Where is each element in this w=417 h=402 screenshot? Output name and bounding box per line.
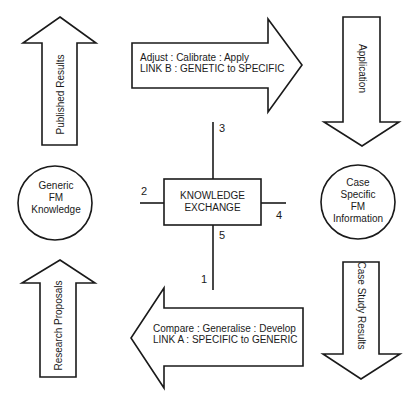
case-line4: Information (320, 213, 396, 225)
exchange-line2: EXCHANGE (164, 202, 261, 214)
case-study-results-label: Case Study Results (356, 256, 367, 356)
connector-label-3: 3 (219, 122, 225, 134)
application-label: Application (357, 19, 368, 119)
case-line3: FM (320, 201, 396, 213)
exchange-text: KNOWLEDGE EXCHANGE (164, 190, 261, 214)
generic-line3: Knowledge (20, 204, 92, 216)
link-a-line2: LINK A : SPECIFIC to GENERIC (153, 334, 298, 346)
connector-label-1: 1 (201, 273, 207, 285)
case-line2: Specific (320, 189, 396, 201)
exchange-line1: KNOWLEDGE (164, 190, 261, 202)
connector-label-4: 4 (276, 209, 282, 221)
connector-label-5: 5 (219, 229, 225, 241)
case-line1: Case (320, 177, 396, 189)
research-proposals-label: Research Proposals (53, 276, 64, 376)
case-node-text: Case Specific FM Information (320, 177, 396, 225)
generic-line1: Generic (20, 180, 92, 192)
link-b-line2: LINK B : GENETIC to SPECIFIC (140, 63, 284, 75)
generic-node-text: Generic FM Knowledge (20, 180, 92, 216)
published-results-label: Published Results (55, 45, 66, 145)
connector-label-2: 2 (141, 185, 147, 197)
generic-line2: FM (20, 192, 92, 204)
